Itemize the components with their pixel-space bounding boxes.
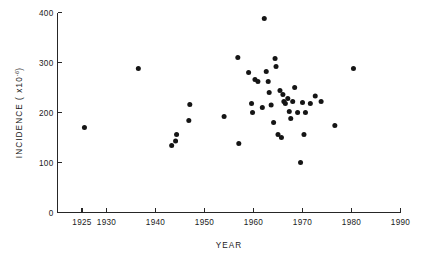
data-points-layer: [82, 16, 356, 165]
data-point: [295, 110, 300, 115]
data-point: [269, 103, 274, 108]
data-point: [267, 90, 272, 95]
y-axis-title-prefix: INCIDENCE ( x10: [15, 76, 24, 158]
y-axis-tick-label: 200: [39, 109, 54, 118]
y-axis-tick-label: 400: [39, 9, 54, 18]
x-axis: 19251930194019501960197019801990: [58, 208, 411, 227]
data-point: [264, 69, 269, 74]
plot-canvas: 0100200300400 19251930194019501960197019…: [0, 0, 423, 260]
data-point: [277, 88, 282, 93]
data-point: [222, 114, 227, 119]
data-point: [292, 85, 297, 90]
y-axis-title-suffix: ): [15, 67, 24, 71]
x-axis-tick-label: 1970: [293, 218, 313, 227]
data-point: [82, 125, 87, 130]
x-axis-title: YEAR: [216, 241, 243, 250]
scatter-plot-figure: 0100200300400 19251930194019501960197019…: [0, 0, 423, 260]
data-point: [136, 66, 141, 71]
data-point: [186, 118, 191, 123]
data-point: [249, 101, 254, 106]
data-point: [187, 102, 192, 107]
data-point: [288, 116, 293, 121]
data-point: [283, 101, 288, 106]
x-axis-tick-label: 1940: [146, 218, 166, 227]
data-point: [285, 96, 290, 101]
y-axis-tick-label: 100: [39, 159, 54, 168]
data-point: [313, 94, 318, 99]
data-point: [319, 99, 324, 104]
data-point: [300, 100, 305, 105]
data-point: [280, 92, 285, 97]
data-point: [303, 110, 308, 115]
data-point: [169, 143, 174, 148]
data-point: [266, 79, 271, 84]
x-axis-tick-label: 1950: [195, 218, 215, 227]
x-axis-tick-label: 1930: [97, 218, 117, 227]
data-point: [351, 66, 356, 71]
data-point: [301, 132, 306, 137]
y-axis: 0100200300400: [39, 9, 62, 218]
x-axis-tick-label: 1990: [391, 218, 411, 227]
data-point: [308, 101, 313, 106]
data-point: [332, 123, 337, 128]
data-point: [255, 79, 260, 84]
x-axis-tick-label: 1925: [72, 218, 92, 227]
data-point: [274, 64, 279, 69]
data-point: [260, 105, 265, 110]
data-point: [273, 56, 278, 61]
data-point: [262, 16, 267, 21]
y-axis-tick-label: 300: [39, 59, 54, 68]
data-point: [173, 139, 178, 144]
data-point: [279, 135, 284, 140]
y-axis-title: INCIDENCE ( x10-6): [14, 67, 24, 158]
x-axis-tick-label: 1960: [244, 218, 264, 227]
data-point: [246, 70, 251, 75]
data-point: [250, 110, 255, 115]
data-point: [235, 55, 240, 60]
data-point: [271, 120, 276, 125]
data-point: [290, 99, 295, 104]
x-axis-tick-label: 1980: [342, 218, 362, 227]
data-point: [287, 109, 292, 114]
y-axis-tick-label: 0: [49, 209, 54, 218]
data-point: [298, 160, 303, 165]
data-point: [236, 141, 241, 146]
data-point: [174, 132, 179, 137]
